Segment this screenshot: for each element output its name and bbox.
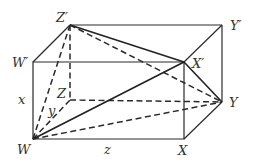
diagonal-w-y [33, 102, 222, 139]
label-w: W [17, 142, 32, 157]
label-xp: X′ [191, 56, 204, 71]
label-yp: Y′ [230, 18, 242, 33]
label-y: Y [229, 95, 239, 110]
box-diagram: Z′ Y′ W′ X′ Z Y W X x y z [0, 0, 256, 165]
label-x: X [177, 143, 188, 158]
edge-label-y: y [47, 103, 56, 118]
label-wp: W′ [12, 55, 28, 70]
label-z: Z [56, 86, 67, 101]
hidden-edge-z-y [70, 100, 222, 102]
edge-x-y [184, 102, 222, 139]
edge-label-z: z [103, 142, 111, 157]
label-zp: Z′ [55, 10, 68, 25]
diagonal-zp-xp [70, 25, 184, 62]
diagonal-w-zp [33, 25, 70, 139]
edge-label-x: x [18, 92, 26, 107]
